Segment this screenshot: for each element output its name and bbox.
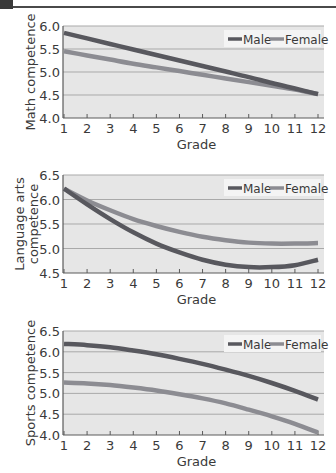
- x-tick-label: 6: [175, 276, 183, 291]
- legend-label-female: Female: [285, 182, 328, 196]
- y-tick-label: 5.0: [39, 242, 60, 257]
- y-tick-label: 6.0: [39, 345, 60, 360]
- x-tick-label: 4: [129, 438, 137, 453]
- y-tick-label: 4.5: [39, 88, 60, 103]
- x-tick-label: 6: [175, 121, 183, 136]
- section-marker: [0, 0, 13, 9]
- x-axis-title: Grade: [177, 137, 217, 152]
- legend-label-male: Male: [243, 33, 271, 47]
- y-axis-title: Language artscompetence: [12, 177, 41, 271]
- x-tick-label: 2: [83, 121, 91, 136]
- y-tick-label: 6.0: [39, 19, 60, 34]
- chart-language-arts-competence: 4.55.05.56.06.5123456789101112GradeLangu…: [0, 160, 336, 310]
- y-tick-label: 4.0: [39, 111, 60, 126]
- x-tick-label: 9: [245, 121, 253, 136]
- x-tick-label: 1: [60, 121, 68, 136]
- y-tick-label: 4.0: [39, 428, 60, 443]
- x-tick-label: 5: [152, 121, 160, 136]
- y-tick-label: 5.0: [39, 65, 60, 80]
- x-tick-label: 1: [60, 438, 68, 453]
- x-tick-label: 4: [129, 121, 137, 136]
- legend: MaleFemale: [224, 30, 328, 47]
- x-tick-label: 12: [310, 438, 327, 453]
- x-axis-title: Grade: [177, 292, 217, 307]
- x-tick-label: 10: [264, 276, 281, 291]
- x-tick-label: 9: [245, 276, 253, 291]
- chart-math-competence: 4.04.55.05.56.0123456789101112GradeMath …: [0, 12, 336, 157]
- y-tick-label: 6.5: [39, 324, 60, 339]
- y-tick-label: 5.5: [39, 366, 60, 381]
- x-tick-label: 11: [287, 276, 304, 291]
- x-tick-label: 8: [221, 438, 229, 453]
- x-tick-label: 5: [152, 438, 160, 453]
- x-tick-label: 9: [245, 438, 253, 453]
- y-tick-label: 5.0: [39, 386, 60, 401]
- x-tick-label: 7: [198, 121, 206, 136]
- y-tick-label: 4.5: [39, 407, 60, 422]
- x-tick-label: 4: [129, 276, 137, 291]
- x-tick-label: 6: [175, 438, 183, 453]
- top-rule: [0, 0, 336, 8]
- x-axis-title: Grade: [177, 454, 217, 469]
- y-tick-label: 4.5: [39, 266, 60, 281]
- x-tick-label: 10: [264, 121, 281, 136]
- legend-label-male: Male: [243, 338, 271, 352]
- y-tick-label: 6.0: [39, 193, 60, 208]
- x-tick-label: 7: [198, 438, 206, 453]
- x-tick-label: 3: [106, 438, 114, 453]
- x-tick-label: 5: [152, 276, 160, 291]
- y-tick-label: 6.5: [39, 168, 60, 183]
- legend: MaleFemale: [224, 179, 328, 196]
- x-tick-label: 11: [287, 121, 304, 136]
- x-tick-label: 2: [83, 438, 91, 453]
- legend-label-female: Female: [285, 338, 328, 352]
- y-tick-label: 5.5: [39, 217, 60, 232]
- legend: MaleFemale: [224, 335, 328, 352]
- y-axis-title: Math competence: [23, 13, 38, 130]
- x-tick-label: 8: [221, 276, 229, 291]
- x-tick-label: 10: [264, 438, 281, 453]
- x-tick-label: 3: [106, 276, 114, 291]
- x-tick-label: 12: [310, 121, 327, 136]
- y-axis-title: Sports competence: [23, 320, 38, 446]
- x-tick-label: 7: [198, 276, 206, 291]
- y-tick-label: 5.5: [39, 42, 60, 57]
- x-tick-label: 3: [106, 121, 114, 136]
- legend-label-male: Male: [243, 182, 271, 196]
- x-tick-label: 1: [60, 276, 68, 291]
- legend-label-female: Female: [285, 33, 328, 47]
- chart-sports-competence: 4.04.55.05.56.06.5123456789101112GradeSp…: [0, 316, 336, 473]
- x-tick-label: 2: [83, 276, 91, 291]
- x-tick-label: 12: [310, 276, 327, 291]
- x-tick-label: 11: [287, 438, 304, 453]
- x-tick-label: 8: [221, 121, 229, 136]
